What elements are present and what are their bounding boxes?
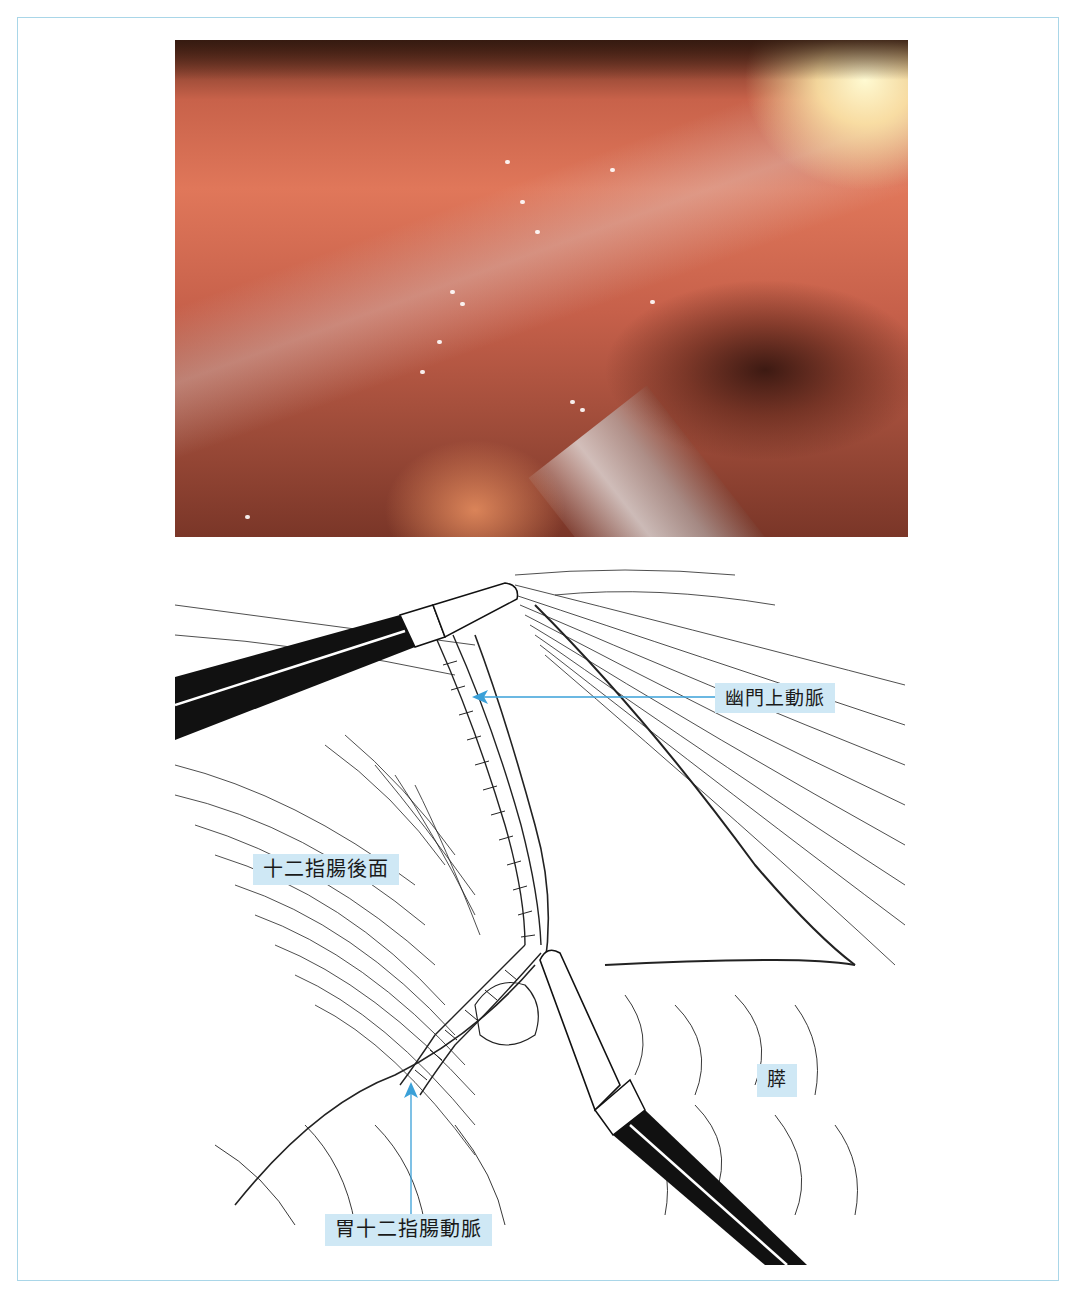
gastroduodenal-artery bbox=[400, 945, 541, 1095]
tissue-ridge bbox=[475, 635, 548, 965]
glint bbox=[245, 515, 250, 519]
forceps-upper bbox=[175, 583, 518, 740]
label-gastroduodenal-artery: 胃十二指腸動脈 bbox=[325, 1214, 492, 1246]
tissue-edge bbox=[535, 605, 855, 965]
glint bbox=[420, 370, 425, 374]
glint bbox=[610, 168, 615, 172]
glint bbox=[520, 200, 525, 204]
arrow-to-suprapyloric-artery bbox=[460, 688, 720, 708]
fiber-lines-right bbox=[515, 570, 905, 965]
forceps-lower bbox=[540, 950, 807, 1265]
duodenum-outline bbox=[235, 965, 535, 1205]
label-posterior-duodenum: 十二指腸後面 bbox=[253, 854, 399, 885]
label-suprapyloric-artery: 幽門上動脈 bbox=[715, 683, 835, 713]
photo-top-shadow bbox=[175, 40, 908, 80]
glint bbox=[450, 290, 455, 294]
surgical-illustration bbox=[175, 565, 915, 1265]
glint bbox=[580, 408, 585, 412]
arrow-to-gastroduodenal-artery bbox=[402, 1076, 422, 1216]
label-pancreas: 膵 bbox=[757, 1064, 797, 1097]
glint bbox=[650, 300, 655, 304]
glint bbox=[437, 340, 442, 344]
glint bbox=[505, 160, 510, 164]
pancreas-border bbox=[605, 960, 855, 965]
endoscopic-photo bbox=[175, 40, 908, 537]
instrument-in-photo bbox=[529, 386, 832, 537]
glint bbox=[570, 400, 575, 404]
glint bbox=[460, 302, 465, 306]
glint bbox=[535, 230, 540, 234]
